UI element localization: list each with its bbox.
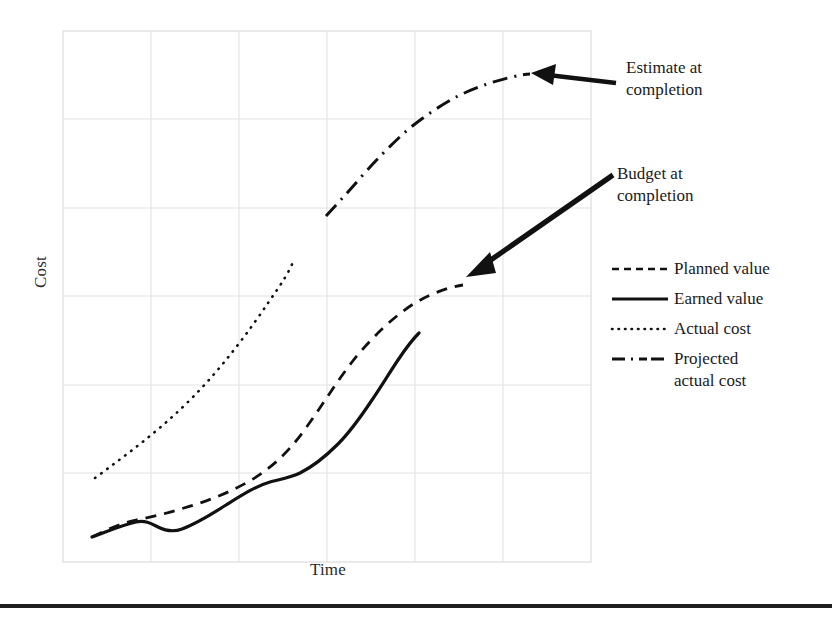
plot-grid: [63, 31, 591, 562]
x-axis-label: Time: [288, 560, 368, 580]
annotation-bac-line1: Budget at: [617, 163, 693, 185]
earned-value-chart-figure: Cost Time Estimate at completion Budget …: [0, 0, 832, 624]
legend-item-planned-value: Planned value: [610, 258, 828, 288]
legend-label-planned-value: Planned value: [670, 258, 770, 280]
y-axis-label: Cost: [31, 227, 51, 317]
annotation-eac-line2: completion: [626, 79, 702, 101]
legend-swatch-dashed-icon: [610, 258, 670, 278]
legend-item-earned-value: Earned value: [610, 288, 828, 318]
annotation-bac-line2: completion: [617, 185, 693, 207]
chart-legend: Planned value Earned value Actual cost: [610, 258, 828, 378]
annotation-estimate-at-completion: Estimate at completion: [626, 57, 702, 101]
legend-label-actual-cost: Actual cost: [670, 318, 751, 340]
legend-item-actual-cost: Actual cost: [610, 318, 828, 348]
bottom-divider-rule: [0, 604, 832, 608]
legend-item-projected-actual-cost: Projected actual cost: [610, 348, 828, 378]
legend-swatch-dotted-icon: [610, 318, 670, 338]
legend-label-projected-actual-cost: Projected actual cost: [670, 348, 746, 392]
legend-swatch-dash-dot-icon: [610, 348, 670, 368]
legend-label-earned-value: Earned value: [670, 288, 763, 310]
annotation-budget-at-completion: Budget at completion: [617, 163, 693, 207]
annotation-eac-line1: Estimate at: [626, 57, 702, 79]
legend-swatch-solid-icon: [610, 288, 670, 308]
